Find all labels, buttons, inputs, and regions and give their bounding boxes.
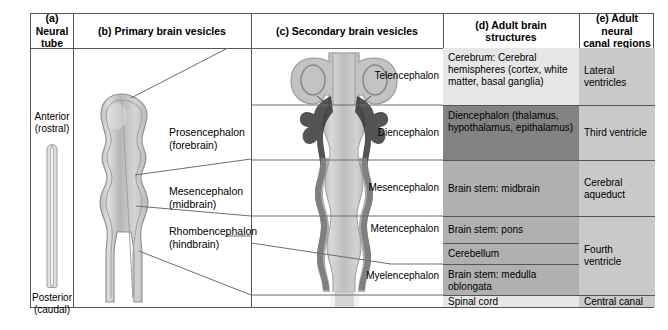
- primary-vesicle-label-mesencephalon: Mesencephalon (midbrain): [169, 185, 243, 210]
- posterior-label-line1: Posterior: [31, 292, 73, 304]
- connector-rhombencephalon: [139, 251, 251, 295]
- adult-structure-diencephalon: Diencephalon (thalamus, hypothalamus, ep…: [443, 105, 579, 160]
- rhombencephalon-line1: Rhombencephalon: [169, 225, 257, 238]
- column-header-e-line1: (e) Adult neural: [582, 12, 652, 37]
- adult-structure-cerebrum: Cerebrum: Cerebral hemispheres (cortex, …: [443, 48, 579, 105]
- secondary-vesicle-label-myelencephalon: Myelencephalon: [366, 270, 439, 281]
- rhombencephalon-line2: (hindbrain): [169, 238, 257, 251]
- mesencephalon-line1: Mesencephalon: [169, 185, 243, 198]
- column-d-adult-brain-structures: Cerebrum: Cerebral hemispheres (cortex, …: [443, 48, 579, 307]
- secondary-vesicle-label-diencephalon: Diencephalon: [378, 127, 439, 138]
- spinal-cord-tail-left-canal: [330, 292, 335, 306]
- prosencephalon-line1: Prosencephalon: [169, 126, 245, 139]
- canal-region-fourth-ventricle: Fourth ventricle: [579, 216, 655, 295]
- primary-vesicle-label-prosencephalon: Prosencephalon (forebrain): [169, 126, 245, 151]
- column-header-d-line1: (d) Adult brain: [475, 19, 546, 32]
- column-header-c: (c) Secondary brain vesicles: [251, 14, 443, 48]
- spinal-cord-tail: [333, 292, 355, 306]
- spinal-cord-tail-right-canal: [354, 292, 359, 306]
- column-header-b: (b) Primary brain vesicles: [73, 14, 251, 48]
- primary-vesicle-highlight: [107, 103, 127, 129]
- column-a-neural-tube: Anterior (rostral) Posterior (caudal): [31, 48, 73, 307]
- column-header-a-line1: (a) Neural: [34, 12, 70, 37]
- column-c-secondary-vesicles: Telencephalon Diencephalon Mesencephalon…: [251, 48, 443, 307]
- figure-table-frame: (a) Neural tube (b) Primary brain vesicl…: [30, 13, 654, 308]
- canal-region-cerebral-aqueduct: Cerebral aqueduct: [579, 160, 655, 216]
- column-header-e: (e) Adult neural canal regions: [579, 14, 655, 48]
- column-header-d-line2: structures: [475, 31, 546, 44]
- neural-canal-lumen: [50, 147, 54, 286]
- column-e-adult-neural-canal-regions: Lateral ventricles Third ventricle Cereb…: [579, 48, 655, 307]
- posterior-label-line2: (caudal): [31, 304, 73, 316]
- column-header-a: (a) Neural tube: [31, 14, 73, 48]
- mesencephalon-line2: (midbrain): [169, 198, 243, 211]
- adult-structure-pons: Brain stem: pons: [443, 216, 579, 243]
- posterior-label: Posterior (caudal): [31, 292, 73, 316]
- connector-mesencephalon-upper: [135, 159, 251, 175]
- anterior-label-line2: (rostral): [31, 123, 73, 135]
- prosencephalon-line2: (forebrain): [169, 139, 245, 152]
- secondary-vesicle-label-metencephalon: Metencephalon: [371, 223, 439, 234]
- brain-development-figure: (a) Neural tube (b) Primary brain vesicl…: [0, 0, 668, 330]
- adult-structure-spinal-cord: Spinal cord: [443, 295, 579, 307]
- connector-prosencephalon: [131, 48, 251, 98]
- adult-structure-medulla: Brain stem: medulla oblongata: [443, 264, 579, 295]
- anterior-label: Anterior (rostral): [31, 111, 73, 135]
- anterior-label-line1: Anterior: [31, 111, 73, 123]
- column-header-d: (d) Adult brain structures: [443, 14, 579, 48]
- secondary-vesicle-label-mesencephalon: Mesencephalon: [368, 182, 439, 193]
- canal-region-central-canal: Central canal: [579, 295, 655, 307]
- column-b-primary-vesicles: Prosencephalon (forebrain) Mesencephalon…: [73, 48, 251, 307]
- secondary-vesicle-label-telencephalon: Telencephalon: [375, 70, 440, 81]
- canal-region-lateral-ventricles: Lateral ventricles: [579, 48, 655, 105]
- canal-region-third-ventricle: Third ventricle: [579, 105, 655, 160]
- primary-vesicle-illustration: [73, 48, 251, 307]
- adult-structure-midbrain: Brain stem: midbrain: [443, 160, 579, 216]
- primary-vesicle-label-rhombencephalon: Rhombencephalon (hindbrain): [169, 225, 257, 250]
- secondary-vesicle-illustration: [251, 48, 443, 307]
- adult-structure-cerebellum: Cerebellum: [443, 243, 579, 264]
